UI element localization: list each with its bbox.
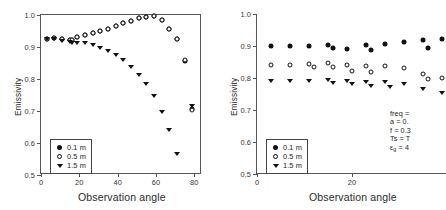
- data-point: [307, 44, 312, 49]
- x-tick-label: 60: [152, 178, 160, 187]
- data-point: [350, 68, 355, 73]
- filled-triangle-marker: [287, 79, 293, 83]
- data-point: [331, 65, 336, 70]
- data-point: [167, 27, 172, 32]
- open-circle-marker: [113, 23, 118, 28]
- legend-item-3[interactable]: 1.5 m: [271, 161, 302, 170]
- data-point: [331, 45, 336, 50]
- x-axis-label-right: Observation angle: [309, 191, 397, 203]
- y-tick-label: 1.0: [240, 10, 251, 19]
- data-point: [51, 37, 57, 41]
- data-point: [349, 82, 355, 86]
- open-circle-marker: [159, 17, 164, 22]
- filled-triangle-marker: [136, 73, 142, 77]
- data-point: [83, 32, 88, 37]
- open-circle-marker: [83, 32, 88, 37]
- legend-item-2[interactable]: 0.5 m: [271, 152, 302, 161]
- filled-triangle-marker: [51, 37, 57, 41]
- data-point: [90, 30, 95, 35]
- data-point: [129, 18, 134, 23]
- data-point: [152, 13, 157, 18]
- legend-left: 0.1 m0.5 m1.5 m: [50, 139, 92, 174]
- parameter-annotation: freq =a = 0.f = 0.3Ts = Tεg = 4: [390, 110, 411, 153]
- y-axis-label: Emissivity: [14, 78, 23, 116]
- filled-circle-marker: [383, 42, 388, 47]
- data-point: [44, 37, 50, 41]
- open-circle-marker: [331, 65, 336, 70]
- open-circle-marker: [90, 30, 95, 35]
- legend-item-2[interactable]: 0.5 m: [55, 152, 86, 161]
- filled-circle-marker: [57, 145, 62, 150]
- y-tick-label: 0.9: [240, 42, 251, 51]
- filled-triangle-marker: [166, 128, 172, 132]
- x-tick: [41, 173, 42, 177]
- legend-item-1[interactable]: 0.1 m: [271, 143, 302, 152]
- data-point: [387, 85, 393, 89]
- y-tick: [253, 46, 257, 47]
- filled-triangle-marker: [368, 84, 374, 88]
- annotation-line-5: εg = 4: [390, 144, 411, 153]
- filled-triangle-marker: [159, 110, 165, 114]
- data-point: [269, 43, 274, 48]
- x-tick: [194, 173, 195, 177]
- filled-triangle-marker: [174, 152, 180, 156]
- x-tick-label: 40: [113, 178, 121, 187]
- x-tick-label: 20: [75, 178, 83, 187]
- y-tick-label: 0.7: [24, 107, 35, 116]
- data-point: [97, 46, 103, 50]
- open-circle-marker: [288, 62, 293, 67]
- open-circle-marker: [121, 21, 126, 26]
- legend-label: 0.1 m: [67, 143, 86, 152]
- open-circle-marker: [136, 16, 141, 21]
- open-circle-marker: [106, 26, 111, 31]
- open-circle-marker: [98, 29, 103, 34]
- y-tick: [37, 79, 41, 80]
- data-point: [174, 152, 180, 156]
- open-circle-marker: [167, 27, 172, 32]
- y-tick-label: 1.0: [24, 11, 35, 20]
- data-point: [420, 87, 426, 91]
- filled-triangle-marker: [268, 79, 274, 83]
- legend-label: 1.5 m: [283, 161, 302, 170]
- y-tick: [253, 110, 257, 111]
- data-point: [269, 62, 274, 67]
- data-point: [82, 41, 88, 45]
- open-circle-marker: [273, 154, 278, 159]
- y-tick-label: 0.5: [24, 171, 35, 180]
- data-point: [330, 81, 336, 85]
- open-circle-marker: [144, 14, 149, 19]
- filled-circle-marker: [426, 46, 431, 51]
- filled-triangle-marker: [306, 79, 312, 83]
- data-point: [312, 65, 317, 70]
- data-point: [287, 79, 293, 83]
- data-point: [369, 47, 374, 52]
- data-point: [159, 110, 165, 114]
- filled-circle-marker: [369, 47, 374, 52]
- legend-symbol: [271, 164, 280, 168]
- legend-item-3[interactable]: 1.5 m: [55, 161, 86, 170]
- chart-panel-left: 0.50.60.70.80.91.0020406080 Emissivity O…: [0, 0, 215, 210]
- data-point: [306, 79, 312, 83]
- open-circle-marker: [402, 66, 407, 71]
- y-tick: [253, 78, 257, 79]
- open-circle-marker: [269, 62, 274, 67]
- y-tick-label: 0.9: [24, 43, 35, 52]
- y-tick: [253, 14, 257, 15]
- legend-symbol: [55, 154, 64, 159]
- data-point: [402, 40, 407, 45]
- open-circle-marker: [182, 58, 187, 63]
- chart-panel-right: 0.50.60.70.80.91.0020 Emissivity Observa…: [215, 0, 430, 210]
- filled-triangle-marker: [189, 104, 195, 108]
- data-point: [90, 43, 96, 47]
- legend-label: 0.1 m: [283, 143, 302, 152]
- legend-item-1[interactable]: 0.1 m: [55, 143, 86, 152]
- y-tick-label: 0.8: [240, 74, 251, 83]
- legend-symbol: [55, 145, 64, 150]
- data-point: [364, 63, 369, 68]
- y-tick-label: 0.7: [240, 106, 251, 115]
- data-point: [120, 58, 126, 62]
- data-point: [136, 73, 142, 77]
- filled-circle-marker: [345, 47, 350, 52]
- filled-triangle-marker: [113, 53, 119, 57]
- y-tick: [37, 15, 41, 16]
